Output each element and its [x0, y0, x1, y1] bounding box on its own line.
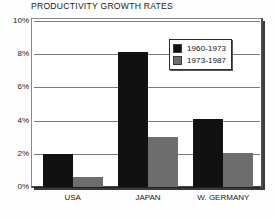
y-axis-tick-label: 8%: [1, 49, 29, 58]
bar: [223, 153, 253, 187]
bar: [118, 52, 148, 187]
x-axis-category-labels: USAJAPANW. GERMANY: [0, 193, 275, 209]
legend: 1960-19731973-1987: [169, 39, 232, 70]
bar: [193, 119, 223, 187]
y-axis-tick-label: 0%: [1, 182, 29, 191]
x-axis-tick-label: JAPAN: [135, 193, 160, 202]
y-axis-tick-label: 10%: [1, 16, 29, 25]
y-axis-tick-labels: 10%8%6%4%2%0%: [0, 0, 29, 220]
gridline: [34, 21, 260, 22]
gridline: [34, 187, 260, 188]
bar: [43, 154, 73, 187]
x-axis-tick-label: USA: [64, 193, 80, 202]
legend-swatch-icon: [173, 56, 182, 65]
y-axis-tick-label: 6%: [1, 82, 29, 91]
legend-swatch-icon: [173, 44, 182, 53]
bar: [148, 137, 178, 187]
legend-item: 1960-1973: [173, 42, 226, 54]
x-axis-tick-label: W. GERMANY: [197, 193, 249, 202]
legend-label: 1973-1987: [187, 56, 226, 65]
legend-item: 1973-1987: [173, 54, 226, 66]
chart-container: PRODUCTIVITY GROWTH RATES 10%8%6%4%2%0% …: [0, 0, 275, 220]
y-axis-tick-label: 2%: [1, 149, 29, 158]
y-axis-tick-label: 4%: [1, 116, 29, 125]
legend-label: 1960-1973: [187, 44, 226, 53]
bar: [73, 177, 103, 187]
chart-title: PRODUCTIVITY GROWTH RATES: [31, 1, 173, 11]
